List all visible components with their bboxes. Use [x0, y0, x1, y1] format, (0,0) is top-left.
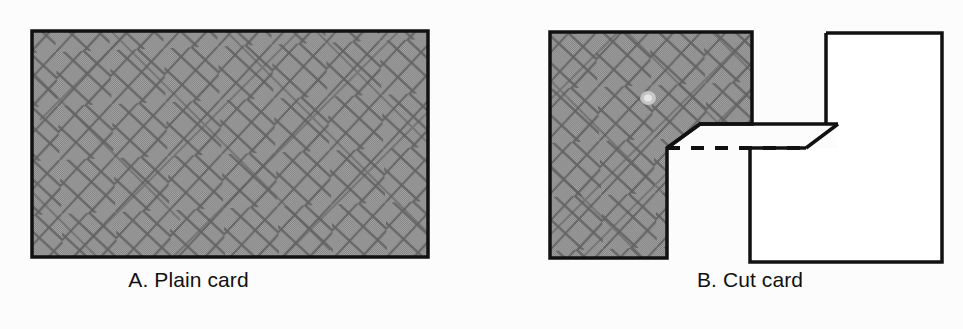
figure-container: A. Plain card: [0, 0, 963, 329]
panel-b-cut-card: B. Cut card: [481, 0, 963, 329]
panel-a-plain-card: A. Plain card: [0, 0, 481, 329]
flap-angled-edge: [806, 124, 838, 148]
scan-blemish-core: [644, 95, 652, 102]
panel-b-caption: B. Cut card: [509, 268, 963, 292]
plain-card-body: [10, 0, 470, 290]
panel-a-caption: A. Plain card: [0, 268, 429, 292]
